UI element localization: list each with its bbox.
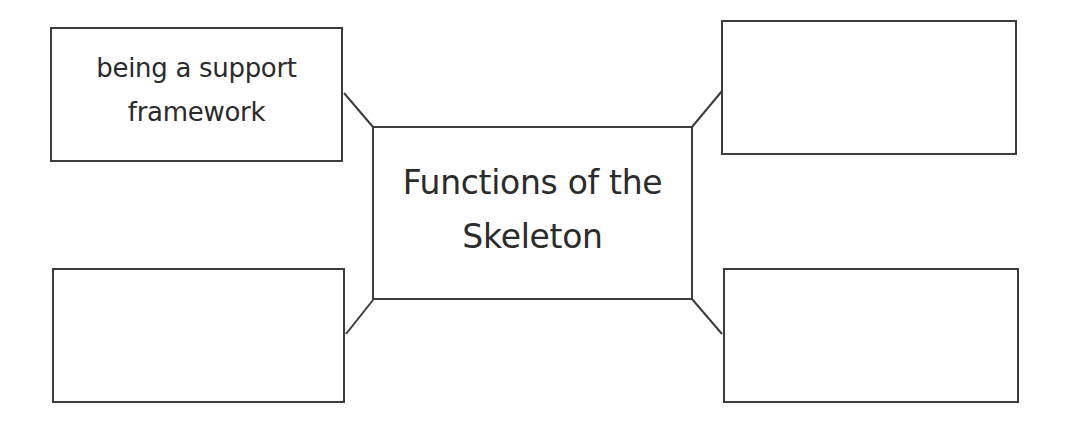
node-box-bottom-right: [723, 268, 1019, 403]
central-topic-line-2: Skeleton: [462, 210, 602, 264]
node-box-top-left: being a support framework: [50, 27, 343, 162]
node-text-line-2: framework: [128, 90, 265, 134]
node-box-bottom-left: [52, 268, 345, 403]
central-topic-box: Functions of the Skeleton: [372, 126, 693, 300]
central-topic-line-1: Functions of the: [403, 156, 663, 210]
connector-bottom-right: [692, 299, 722, 334]
node-box-top-right: [721, 20, 1017, 155]
node-text-line-1: being a support: [96, 46, 297, 90]
connector-top-right: [692, 91, 722, 127]
connector-top-left: [344, 93, 373, 127]
connector-bottom-left: [346, 300, 373, 334]
